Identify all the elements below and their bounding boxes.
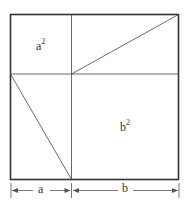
proof-diagram: [0, 0, 188, 205]
arrowhead-a-right: [65, 188, 71, 193]
arrowhead-b-left: [73, 188, 79, 193]
arrowhead-a-left: [12, 188, 18, 193]
dimension-label-a: a: [38, 183, 43, 195]
arrowhead-b-right: [172, 188, 178, 193]
diagonal-bottom-left: [11, 74, 72, 180]
diagonal-top-right: [72, 15, 179, 75]
dimension-label-b: b: [122, 182, 128, 194]
b-squared-exp: 2: [126, 118, 130, 127]
label-b-squared: b2: [120, 119, 130, 133]
label-a-squared: a2: [36, 38, 45, 52]
a-squared-exp: 2: [41, 37, 45, 46]
